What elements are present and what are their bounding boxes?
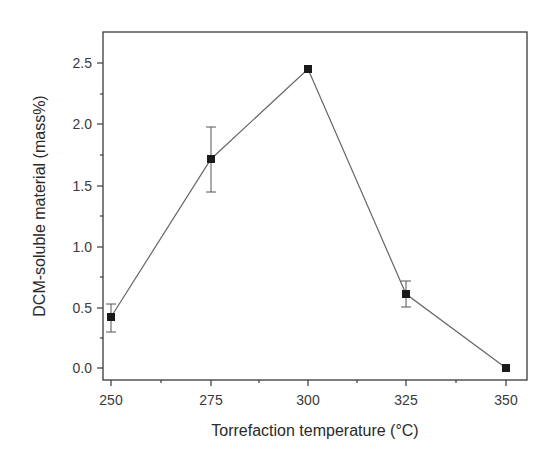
data-line <box>111 69 506 368</box>
data-point-300 <box>304 65 312 73</box>
x-tick-label: 350 <box>494 392 518 408</box>
y-tick-label: 1.0 <box>73 239 93 255</box>
y-tick-labels: 0.0 0.5 1.0 1.5 2.0 2.5 <box>73 55 93 376</box>
y-tick-label: 0.0 <box>73 360 93 376</box>
y-tick-label: 0.5 <box>73 300 93 316</box>
y-tick-label: 1.5 <box>73 178 93 194</box>
chart-figure: 0.0 0.5 1.0 1.5 2.0 2.5 250 275 300 325 … <box>0 0 556 463</box>
x-tick-label: 275 <box>199 392 223 408</box>
x-tick-label: 300 <box>296 392 320 408</box>
x-tick-label: 325 <box>394 392 418 408</box>
x-tick-labels: 250 275 300 325 350 <box>99 392 518 408</box>
x-tick-label: 250 <box>99 392 123 408</box>
y-axis-title: DCM-soluble material (mass%) <box>31 95 48 316</box>
y-tick-label: 2.5 <box>73 55 93 71</box>
data-point-350 <box>502 364 510 372</box>
data-point-250 <box>107 313 115 321</box>
data-point-275 <box>207 155 215 163</box>
y-axis-ticks <box>97 63 103 368</box>
x-axis-title: Torrefaction temperature (°C) <box>211 422 418 439</box>
data-point-325 <box>402 290 410 298</box>
x-axis-ticks <box>111 380 506 386</box>
y-tick-label: 2.0 <box>73 116 93 132</box>
error-bars <box>106 127 411 332</box>
